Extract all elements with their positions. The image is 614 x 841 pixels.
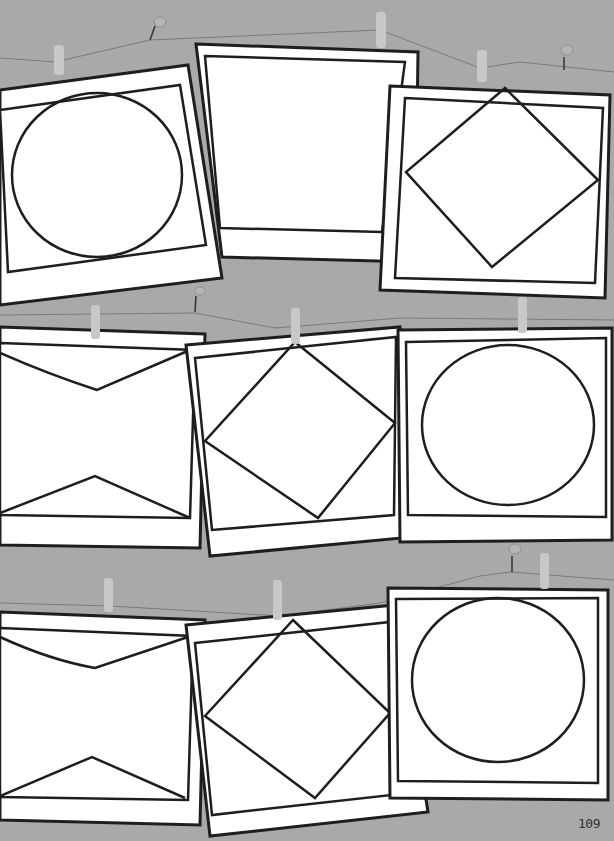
clothespin-icon <box>54 45 64 75</box>
polaroid-frame-bowtie <box>0 612 205 825</box>
clothespin-icon <box>91 305 100 339</box>
polaroid-frame-diamond <box>380 86 610 298</box>
clothespin-icon <box>518 297 527 333</box>
polaroid-frame-diamond <box>186 327 402 556</box>
polaroid-frame-circle <box>388 588 608 800</box>
polaroid-frame-circle <box>0 65 222 305</box>
coloring-page-scene <box>0 0 614 841</box>
clothespin-icon <box>477 50 487 82</box>
polaroid-frame-bowtie <box>0 327 205 548</box>
clothespin-icon <box>540 553 549 589</box>
page-number: 109 <box>578 816 600 831</box>
clothespin-icon <box>273 580 282 620</box>
clothespin-icon <box>291 308 300 344</box>
polaroid-frame-circle <box>398 328 612 542</box>
clothespin-icon <box>104 578 113 612</box>
clothespin-icon <box>376 12 386 48</box>
